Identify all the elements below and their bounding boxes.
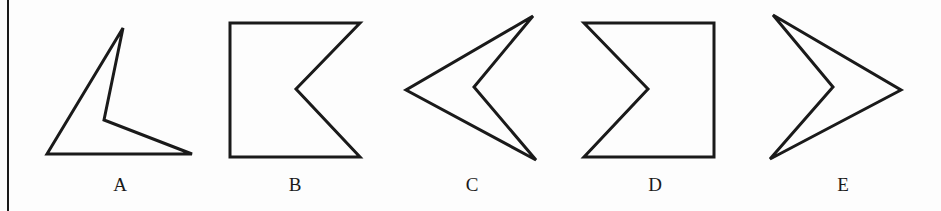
shape-e — [770, 15, 901, 159]
label-e: E — [837, 174, 849, 196]
shape-b — [230, 23, 360, 157]
label-b: B — [289, 174, 302, 196]
shape-d — [584, 23, 714, 157]
label-c: C — [466, 174, 479, 196]
shape-c — [406, 16, 536, 160]
label-d: D — [648, 174, 662, 196]
shape-a — [47, 28, 192, 154]
label-a: A — [113, 174, 127, 196]
